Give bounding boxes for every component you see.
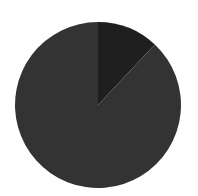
pie-slice-2 <box>15 22 181 188</box>
pie-chart <box>0 0 198 196</box>
pie-chart-canvas <box>0 0 198 196</box>
